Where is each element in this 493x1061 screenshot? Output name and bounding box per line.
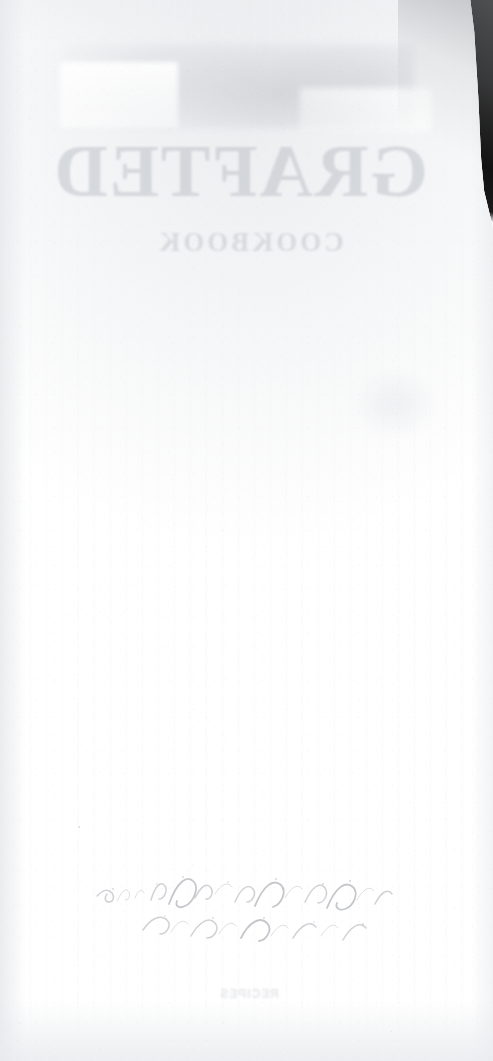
scan-streaks: [0, 0, 493, 1061]
showthrough-subtitle: COOKBOOK: [110, 226, 390, 258]
scan-grain: [0, 0, 493, 1061]
scanned-page-image: GRAFTED COOKBOOK: [0, 0, 493, 1061]
showthrough-title: GRAFTED: [72, 128, 428, 214]
paper-tone-gradient: [0, 0, 493, 1061]
pale-ghost-patch-left: [60, 62, 178, 128]
paper-page: GRAFTED COOKBOOK: [0, 0, 493, 1061]
paper-speck: [78, 826, 80, 828]
paper-speck: [29, 118, 30, 119]
handwritten-inscription: [95, 868, 395, 960]
ink-wash-band: [62, 44, 414, 128]
mid-page-blot: [336, 356, 454, 452]
showthrough-caption: RECIPES: [176, 986, 322, 1002]
pale-ghost-patch-right: [300, 88, 432, 132]
paper-speck: [391, 1031, 392, 1032]
paper-speck: [166, 918, 167, 919]
